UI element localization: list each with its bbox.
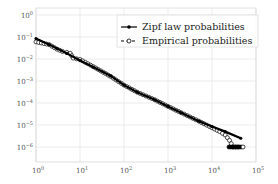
legend-zipf-label: Zipf law probabilities — [142, 21, 245, 32]
x-tick-label: 102 — [120, 165, 132, 175]
x-axis-ticks: 100101102103104105 — [32, 165, 264, 175]
x-tick-label: 105 — [252, 165, 264, 175]
y-tick-label: 100 — [21, 10, 33, 20]
zipf-series — [34, 37, 242, 140]
y-tick-label: 10−1 — [17, 32, 33, 42]
y-tick-label: 10−2 — [17, 54, 33, 64]
open-circle-marker-icon — [127, 39, 131, 43]
legend-empirical-label: Empirical probabilities — [142, 35, 252, 46]
y-tick-label: 10−5 — [17, 120, 33, 130]
y-axis-ticks: 10010−110−210−310−410−510−6 — [17, 10, 33, 152]
y-tick-label: 10−3 — [17, 76, 33, 86]
y-tick-label: 10−6 — [17, 142, 33, 152]
y-tick-label: 10−4 — [17, 98, 33, 108]
filled-circle-marker-icon — [127, 25, 131, 29]
x-tick-label: 101 — [76, 165, 88, 175]
zipf-chart: 100101102103104105 10010−110−210−310−410… — [0, 0, 278, 184]
empirical-series — [34, 40, 245, 149]
x-tick-label: 104 — [208, 165, 220, 175]
x-tick-label: 103 — [164, 165, 176, 175]
legend: Zipf law probabilities Empirical probabi… — [117, 15, 258, 47]
x-tick-label: 100 — [32, 165, 44, 175]
